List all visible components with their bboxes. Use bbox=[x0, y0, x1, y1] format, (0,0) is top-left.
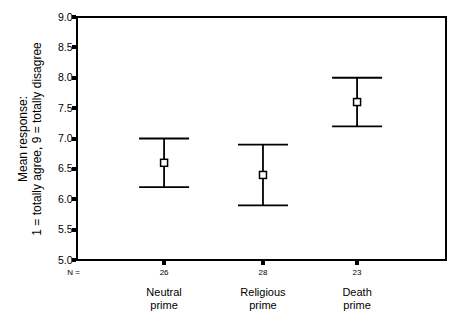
category-label-line1: Death bbox=[342, 286, 371, 298]
y-tick-mark bbox=[72, 106, 76, 110]
y-tick-label: 6.0 bbox=[58, 193, 73, 205]
x-tick-mark bbox=[162, 261, 166, 265]
y-tick-mark bbox=[72, 167, 76, 171]
y-tick-mark bbox=[72, 197, 76, 201]
y-tick-label: 5.5 bbox=[58, 223, 73, 235]
plot-frame bbox=[77, 17, 446, 260]
chart-content: 9.08.58.07.57.06.56.05.55.026Neutralprim… bbox=[58, 11, 382, 312]
y-tick-label: 8.0 bbox=[58, 71, 73, 83]
y-axis-label-line2: 1 = totally agree, 9 = totally disagree bbox=[30, 42, 44, 236]
x-tick-mark bbox=[261, 261, 265, 265]
y-tick-label: 6.5 bbox=[58, 162, 73, 174]
y-tick-label: 7.5 bbox=[58, 102, 73, 114]
y-tick-mark bbox=[72, 15, 76, 19]
mean-marker bbox=[259, 171, 266, 178]
category-label-line1: Religious bbox=[240, 286, 286, 298]
y-tick-label: 9.0 bbox=[58, 11, 73, 23]
category-label-line2: prime bbox=[343, 299, 371, 311]
mean-marker bbox=[354, 99, 361, 106]
mean-marker bbox=[161, 159, 168, 166]
y-tick-label: 5.0 bbox=[58, 254, 73, 266]
y-tick-mark bbox=[72, 45, 76, 49]
category-label-line2: prime bbox=[249, 299, 277, 311]
y-axis-label-line1: Mean response: bbox=[16, 96, 30, 182]
x-tick-mark bbox=[355, 261, 359, 265]
y-tick-mark bbox=[72, 137, 76, 141]
y-tick-mark bbox=[72, 76, 76, 80]
n-value: 26 bbox=[160, 268, 169, 277]
category-label-line1: Neutral bbox=[146, 286, 181, 298]
n-row-label: N = bbox=[67, 268, 80, 277]
n-value: 28 bbox=[259, 268, 268, 277]
category-label-line2: prime bbox=[150, 299, 178, 311]
error-bar-chart: Mean response: 1 = totally agree, 9 = to… bbox=[0, 0, 456, 322]
y-tick-mark bbox=[72, 258, 76, 262]
y-tick-label: 8.5 bbox=[58, 41, 73, 53]
n-value: 23 bbox=[353, 268, 362, 277]
y-tick-mark bbox=[72, 228, 76, 232]
chart-figure: Mean response: 1 = totally agree, 9 = to… bbox=[0, 0, 456, 322]
y-tick-label: 7.0 bbox=[58, 132, 73, 144]
